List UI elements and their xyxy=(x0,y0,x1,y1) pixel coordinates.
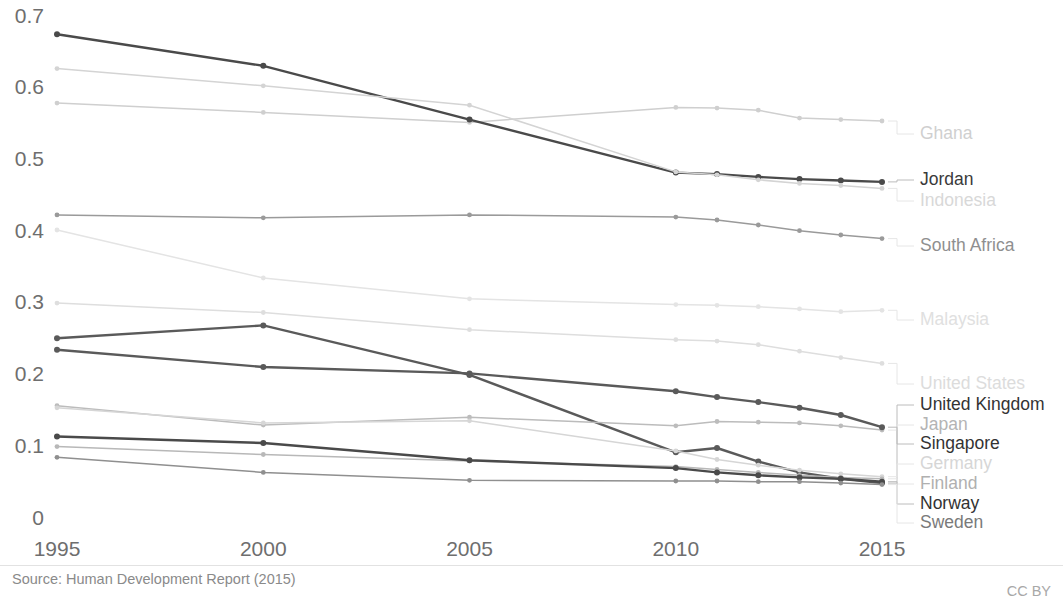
data-point-marker[interactable] xyxy=(755,399,761,405)
data-point-marker[interactable] xyxy=(715,218,720,223)
data-point-marker[interactable] xyxy=(54,335,60,341)
data-point-marker[interactable] xyxy=(55,213,60,218)
data-point-marker[interactable] xyxy=(797,228,802,233)
data-point-marker[interactable] xyxy=(797,421,802,426)
series-line[interactable] xyxy=(57,69,882,189)
series-label-germany[interactable]: Germany xyxy=(920,453,992,473)
data-point-marker[interactable] xyxy=(838,183,843,188)
data-point-marker[interactable] xyxy=(261,276,266,281)
data-point-marker[interactable] xyxy=(715,106,720,111)
data-point-marker[interactable] xyxy=(673,388,679,394)
series-label-indonesia[interactable]: Indonesia xyxy=(920,190,996,210)
data-point-marker[interactable] xyxy=(715,479,720,484)
series-label-ghana[interactable]: Ghana xyxy=(920,123,973,143)
data-point-marker[interactable] xyxy=(838,355,843,360)
series-label-united-kingdom[interactable]: United Kingdom xyxy=(920,394,1045,414)
data-point-marker[interactable] xyxy=(797,468,802,473)
data-point-marker[interactable] xyxy=(714,469,720,475)
data-point-marker[interactable] xyxy=(54,31,60,37)
data-point-marker[interactable] xyxy=(54,347,60,353)
data-point-marker[interactable] xyxy=(756,304,761,309)
data-point-marker[interactable] xyxy=(756,342,761,347)
data-point-marker[interactable] xyxy=(880,308,885,313)
data-point-marker[interactable] xyxy=(838,233,843,238)
data-point-marker[interactable] xyxy=(756,420,761,425)
data-point-marker[interactable] xyxy=(756,463,761,468)
data-point-marker[interactable] xyxy=(838,178,844,184)
data-point-marker[interactable] xyxy=(880,361,885,366)
series-label-norway[interactable]: Norway xyxy=(920,493,980,513)
data-point-marker[interactable] xyxy=(55,66,60,71)
data-point-marker[interactable] xyxy=(715,339,720,344)
series-label-jordan[interactable]: Jordan xyxy=(920,169,974,189)
data-point-marker[interactable] xyxy=(838,423,843,428)
data-point-marker[interactable] xyxy=(880,119,885,124)
data-point-marker[interactable] xyxy=(880,186,885,191)
data-point-marker[interactable] xyxy=(467,213,472,218)
data-point-marker[interactable] xyxy=(879,179,885,185)
data-point-marker[interactable] xyxy=(55,455,60,460)
data-point-marker[interactable] xyxy=(673,337,678,342)
data-point-marker[interactable] xyxy=(838,481,843,486)
series-label-south-africa[interactable]: South Africa xyxy=(920,235,1015,255)
data-point-marker[interactable] xyxy=(55,101,60,106)
data-point-marker[interactable] xyxy=(797,479,802,484)
data-point-marker[interactable] xyxy=(715,419,720,424)
series-label-japan[interactable]: Japan xyxy=(920,414,968,434)
data-point-marker[interactable] xyxy=(467,457,473,463)
data-point-marker[interactable] xyxy=(673,302,678,307)
data-point-marker[interactable] xyxy=(756,177,761,182)
series-label-united-states[interactable]: United States xyxy=(920,373,1025,393)
data-point-marker[interactable] xyxy=(467,103,472,108)
data-point-marker[interactable] xyxy=(467,327,472,332)
data-point-marker[interactable] xyxy=(467,418,472,423)
data-point-marker[interactable] xyxy=(261,421,266,426)
data-point-marker[interactable] xyxy=(260,63,266,69)
data-point-marker[interactable] xyxy=(714,394,720,400)
data-point-marker[interactable] xyxy=(797,349,802,354)
data-point-marker[interactable] xyxy=(260,364,266,370)
data-point-marker[interactable] xyxy=(467,370,473,376)
series-label-sweden[interactable]: Sweden xyxy=(920,512,983,532)
series-label-malaysia[interactable]: Malaysia xyxy=(920,309,989,329)
data-point-marker[interactable] xyxy=(756,108,761,113)
data-point-marker[interactable] xyxy=(797,307,802,312)
data-point-marker[interactable] xyxy=(797,116,802,121)
data-point-marker[interactable] xyxy=(261,215,266,220)
data-point-marker[interactable] xyxy=(260,440,266,446)
data-point-marker[interactable] xyxy=(880,482,885,487)
series-label-finland[interactable]: Finland xyxy=(920,473,977,493)
data-point-marker[interactable] xyxy=(755,472,761,478)
data-point-marker[interactable] xyxy=(673,479,678,484)
series-label-singapore[interactable]: Singapore xyxy=(920,433,1000,453)
data-point-marker[interactable] xyxy=(55,228,60,233)
data-point-marker[interactable] xyxy=(260,322,266,328)
data-point-marker[interactable] xyxy=(797,181,802,186)
data-point-marker[interactable] xyxy=(261,110,266,115)
data-point-marker[interactable] xyxy=(261,310,266,315)
data-point-marker[interactable] xyxy=(714,445,720,451)
data-point-marker[interactable] xyxy=(715,303,720,308)
data-point-marker[interactable] xyxy=(673,215,678,220)
data-point-marker[interactable] xyxy=(838,309,843,314)
data-point-marker[interactable] xyxy=(55,405,60,410)
data-point-marker[interactable] xyxy=(261,470,266,475)
data-point-marker[interactable] xyxy=(467,117,473,123)
data-point-marker[interactable] xyxy=(54,434,60,440)
series-line[interactable] xyxy=(57,303,882,363)
data-point-marker[interactable] xyxy=(673,170,678,175)
data-point-marker[interactable] xyxy=(838,117,843,122)
data-point-marker[interactable] xyxy=(467,478,472,483)
data-point-marker[interactable] xyxy=(756,223,761,228)
data-point-marker[interactable] xyxy=(797,405,803,411)
data-point-marker[interactable] xyxy=(55,301,60,306)
data-point-marker[interactable] xyxy=(55,444,60,449)
data-point-marker[interactable] xyxy=(673,105,678,110)
data-point-marker[interactable] xyxy=(838,412,844,418)
data-point-marker[interactable] xyxy=(673,423,678,428)
data-point-marker[interactable] xyxy=(261,83,266,88)
data-point-marker[interactable] xyxy=(756,479,761,484)
license-note[interactable]: CC BY xyxy=(1007,583,1051,599)
data-point-marker[interactable] xyxy=(715,457,720,462)
data-point-marker[interactable] xyxy=(467,296,472,301)
